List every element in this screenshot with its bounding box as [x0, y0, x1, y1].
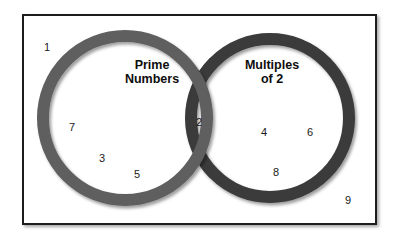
set-label-multiples-of-2: Multiples of 2: [245, 58, 299, 86]
number-item: 5: [134, 169, 140, 180]
venn-diagram-canvas: Prime Numbers Multiples of 2 1 7 3 5 2 4…: [0, 0, 399, 239]
number-item: 2: [196, 117, 202, 128]
number-item: 3: [99, 153, 105, 164]
number-item: 1: [44, 42, 50, 53]
number-item: 7: [69, 122, 75, 133]
set-label-prime-numbers: Prime Numbers: [125, 58, 179, 86]
number-item: 9: [345, 195, 351, 206]
number-item: 8: [273, 167, 279, 178]
number-item: 6: [307, 127, 313, 138]
number-item: 4: [261, 127, 267, 138]
